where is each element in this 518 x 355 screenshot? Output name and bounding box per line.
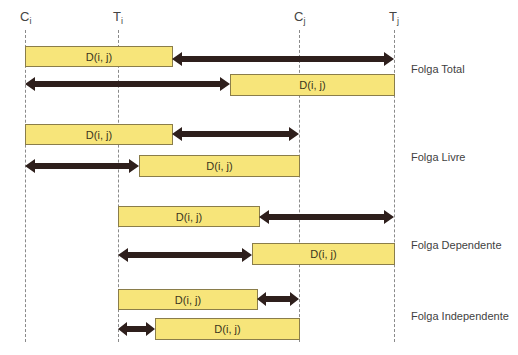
double-arrow-icon xyxy=(257,292,299,306)
duration-bar: D(i, j) xyxy=(25,46,173,67)
marker-ci: Ci xyxy=(20,10,31,26)
group-label-folga-livre: Folga Livre xyxy=(411,151,465,163)
duration-bar: D(i, j) xyxy=(118,206,260,227)
double-arrow-icon xyxy=(25,77,230,91)
group-label-folga-independente: Folga Independente xyxy=(411,310,509,322)
double-arrow-icon xyxy=(118,322,155,336)
double-arrow-icon xyxy=(172,127,299,141)
group-label-folga-dependente: Folga Dependente xyxy=(411,239,502,251)
double-arrow-icon xyxy=(259,210,394,224)
group-label-folga-total: Folga Total xyxy=(411,63,465,75)
marker-cj: Cj xyxy=(294,10,305,26)
marker-tj: Tj xyxy=(389,10,399,26)
double-arrow-icon xyxy=(118,248,252,262)
duration-bar: D(i, j) xyxy=(252,243,395,265)
duration-bar: D(i, j) xyxy=(155,318,300,340)
marker-ti: Ti xyxy=(113,10,123,26)
double-arrow-icon xyxy=(172,52,394,66)
duration-bar: D(i, j) xyxy=(139,155,300,177)
double-arrow-icon xyxy=(25,159,139,173)
duration-bar: D(i, j) xyxy=(25,124,173,145)
duration-bar: D(i, j) xyxy=(118,289,258,310)
duration-bar: D(i, j) xyxy=(230,74,395,96)
